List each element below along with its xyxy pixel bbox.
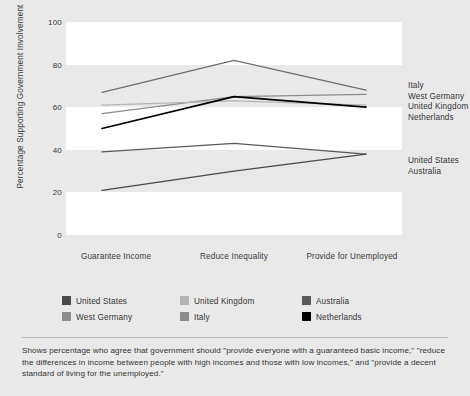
end-label-netherlands: Netherlands [408, 113, 454, 122]
legend-swatch-icon [62, 296, 71, 305]
legend-swatch-icon [302, 296, 311, 305]
chart-figure: Percentage Supporting Government Involve… [0, 0, 470, 396]
y-tick-0: 0 [22, 231, 62, 240]
legend-item-united-kingdom: United Kingdom [180, 296, 254, 306]
legend-label: United States [76, 297, 127, 306]
x-tick-provide-unemployed: Provide for Unemployed [272, 252, 432, 261]
caption-divider [22, 337, 448, 338]
legend-item-australia: Australia [302, 296, 349, 306]
legend-label: United Kingdom [194, 297, 254, 306]
legend-swatch-icon [180, 296, 189, 305]
y-axis-title: Percentage Supporting Government Involve… [16, 0, 25, 197]
figure-caption: Shows percentage who agree that governme… [22, 345, 446, 380]
plot-area [66, 22, 402, 235]
legend-swatch-icon [62, 312, 71, 321]
end-label-united-kingdom: United Kingdom [408, 102, 468, 111]
legend-swatch-icon [180, 312, 189, 321]
legend-label: West Germany [76, 313, 132, 322]
legend-swatch-icon [302, 312, 311, 321]
y-tick-40: 40 [22, 146, 62, 155]
end-label-west-germany: West Germany [408, 92, 464, 101]
chart-legend: United States United Kingdom Australia W… [62, 296, 392, 326]
line-series-group [66, 22, 402, 235]
line-series-united-states [102, 154, 366, 190]
line-series-australia [102, 143, 366, 154]
legend-item-west-germany: West Germany [62, 312, 132, 322]
end-label-australia: Australia [408, 167, 441, 176]
legend-label: Netherlands [316, 313, 362, 322]
line-series-italy [102, 60, 366, 92]
legend-label: Australia [316, 297, 349, 306]
y-tick-60: 60 [22, 103, 62, 112]
end-label-italy: Italy [408, 81, 424, 90]
y-tick-20: 20 [22, 188, 62, 197]
y-tick-100: 100 [22, 18, 62, 27]
legend-item-netherlands: Netherlands [302, 312, 362, 322]
legend-item-italy: Italy [180, 312, 210, 322]
legend-item-united-states: United States [62, 296, 127, 306]
y-tick-80: 80 [22, 61, 62, 70]
end-label-united-states: United States [408, 156, 459, 165]
legend-label: Italy [194, 313, 210, 322]
